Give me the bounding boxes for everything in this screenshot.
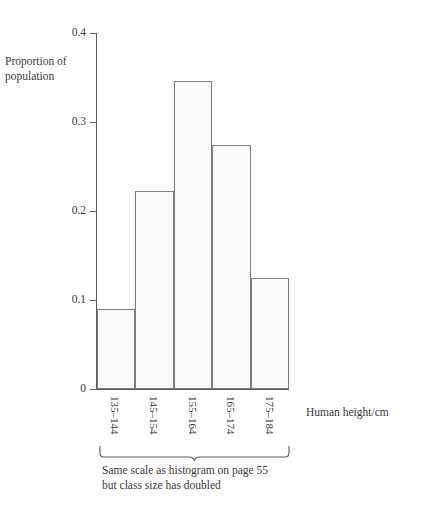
x-tick-label: 135–144 xyxy=(109,396,120,435)
histogram-chart: Proportion of population 00.10.20.30.4 1… xyxy=(0,0,421,518)
x-tick-label: 165–174 xyxy=(225,396,236,435)
bar xyxy=(135,191,174,389)
x-tick-label: 175–184 xyxy=(264,396,275,435)
brace-icon xyxy=(99,446,290,462)
x-axis-title: Human height/cm xyxy=(306,405,389,419)
bar xyxy=(212,145,251,389)
chart-annotation-line1: Same scale as histogram on page 55 xyxy=(102,463,332,478)
category-brace xyxy=(99,446,290,462)
bar xyxy=(174,81,213,389)
chart-annotation-line2: but class size has doubled xyxy=(102,478,332,493)
bar xyxy=(97,309,136,389)
x-tick-label: 145–154 xyxy=(148,396,159,435)
x-tick-label: 155–164 xyxy=(187,396,198,435)
chart-annotation: Same scale as histogram on page 55 but c… xyxy=(102,463,332,493)
bars-layer xyxy=(0,0,421,518)
bar xyxy=(251,278,290,389)
